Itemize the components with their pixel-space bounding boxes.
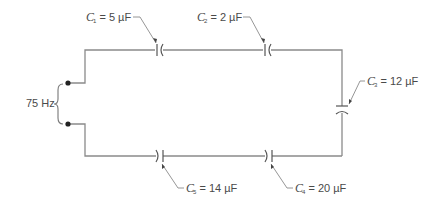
wire-top-right [271, 50, 342, 106]
source-brace [54, 84, 63, 124]
label-c5: C5 = 14 µF [186, 182, 237, 198]
circuit-diagram [0, 0, 433, 210]
label-c2: C2 = 2 µF [197, 11, 242, 27]
label-c1: C1 = 5 µF [86, 11, 131, 27]
leader-c3 [349, 81, 365, 104]
terminal-top [65, 80, 70, 85]
capacitor-c1 [157, 44, 163, 56]
capacitor-c3 [336, 106, 348, 114]
wire-left-bottom [68, 124, 156, 156]
leader-c1 [133, 17, 156, 43]
leader-c4 [271, 164, 293, 188]
capacitor-c4 [265, 150, 272, 162]
capacitor-c5 [156, 150, 163, 162]
wire-left-top [68, 50, 155, 83]
leader-c2 [243, 17, 264, 43]
capacitor-c2 [265, 44, 271, 56]
terminal-bottom [65, 121, 70, 126]
label-c4: C4 = 20 µF [295, 182, 346, 198]
leader-c5 [162, 164, 184, 188]
label-c3: C3 = 12 µF [367, 75, 418, 91]
source-frequency-label: 75 Hz [26, 97, 55, 109]
